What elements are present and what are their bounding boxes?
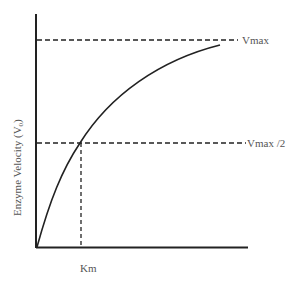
- saturation-curve: [37, 45, 220, 247]
- y-axis-label-main: Enzyme Velocity (V: [11, 126, 24, 216]
- vmax-label: Vmax: [242, 34, 269, 46]
- michaelis-menten-diagram: Vmax Vmax /2 Km Enzyme Velocity (V0): [0, 0, 294, 291]
- km-label: Km: [80, 262, 97, 274]
- y-axis-label-close: ): [11, 119, 24, 123]
- vmax-half-label: Vmax /2: [247, 137, 285, 149]
- y-axis-label: Enzyme Velocity (V0): [11, 119, 25, 216]
